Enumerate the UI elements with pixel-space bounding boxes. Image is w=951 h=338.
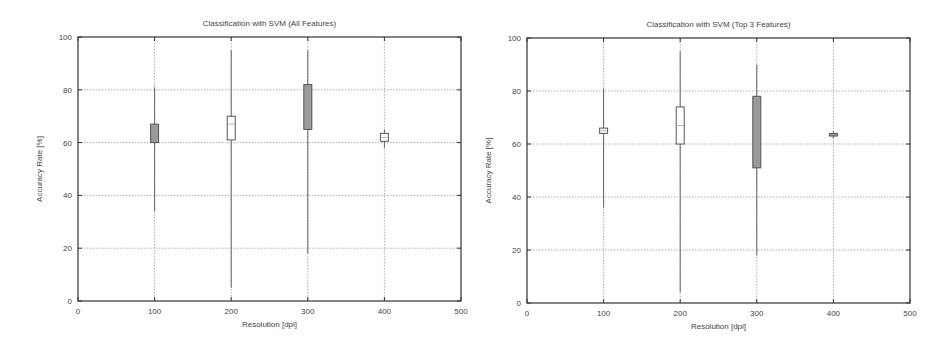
y-tick-label: 100 <box>508 34 522 43</box>
box <box>829 133 837 136</box>
x-tick-label: 300 <box>750 309 764 318</box>
x-tick-label: 200 <box>674 309 688 318</box>
chart-svg-top3-features: 0204060801000100200300400500Classificati… <box>0 0 951 338</box>
y-tick-label: 80 <box>512 87 521 96</box>
x-tick-label: 500 <box>903 309 917 318</box>
box <box>753 96 761 168</box>
y-axis-label: Accuracy Rate [%] <box>484 138 493 204</box>
x-axis-label: Resolution [dpi] <box>691 322 746 331</box>
chart-title: Classification with SVM (Top 3 Features) <box>646 20 790 29</box>
y-tick-label: 20 <box>512 246 521 255</box>
x-tick-label: 100 <box>597 309 611 318</box>
x-tick-label: 0 <box>525 309 530 318</box>
chart-top3-features: 0204060801000100200300400500Classificati… <box>0 0 951 338</box>
y-tick-label: 60 <box>512 140 521 149</box>
y-tick-label: 0 <box>517 299 522 308</box>
x-tick-label: 400 <box>827 309 841 318</box>
y-tick-label: 40 <box>512 193 521 202</box>
plot-frame <box>527 38 910 303</box>
